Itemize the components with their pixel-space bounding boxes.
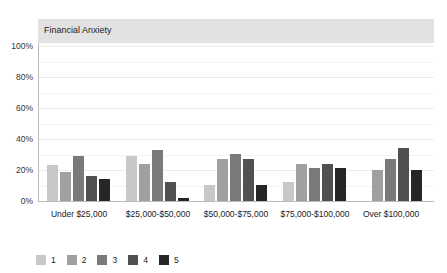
bar	[283, 182, 294, 201]
gridline	[38, 124, 434, 125]
bar	[335, 168, 346, 201]
bar	[126, 156, 137, 201]
x-axis	[38, 201, 434, 202]
legend-swatch-icon	[159, 255, 169, 265]
legend-label: 4	[143, 255, 148, 265]
x-tick-label: Under $25,000	[34, 209, 124, 219]
legend-item[interactable]: 2	[67, 255, 87, 265]
bar	[411, 170, 422, 201]
gridline	[38, 139, 434, 140]
legend-swatch-icon	[36, 255, 46, 265]
x-tick-label: Over $100,000	[346, 209, 436, 219]
chart-title: Financial Anxiety	[44, 25, 112, 35]
y-tick-label: 0%	[0, 196, 33, 206]
bar	[243, 159, 254, 201]
bar	[152, 150, 163, 201]
bar	[165, 182, 176, 201]
y-tick-label: 60%	[0, 103, 33, 113]
bar	[47, 165, 58, 201]
bar	[60, 172, 71, 201]
legend-item[interactable]: 1	[36, 255, 56, 265]
y-tick-label: 20%	[0, 165, 33, 175]
legend-swatch-icon	[67, 255, 77, 265]
bar	[230, 154, 241, 201]
bar	[86, 176, 97, 201]
x-tick-label: $50,000-$75,000	[191, 209, 281, 219]
gridline	[38, 93, 434, 94]
legend-swatch-icon	[97, 255, 107, 265]
bar	[73, 156, 84, 201]
bar-chart: Financial Anxiety 0%20%40%60%80%100% Und…	[0, 0, 447, 273]
chart-header: Financial Anxiety	[38, 19, 434, 43]
legend-label: 5	[174, 255, 179, 265]
bar	[296, 164, 307, 201]
bar	[398, 148, 409, 201]
bar	[139, 164, 150, 201]
bar	[217, 159, 228, 201]
legend-label: 2	[82, 255, 87, 265]
legend: 12345	[36, 255, 190, 265]
legend-item[interactable]: 5	[159, 255, 179, 265]
bar	[372, 170, 383, 201]
y-axis	[38, 43, 39, 201]
y-tick-label: 40%	[0, 134, 33, 144]
legend-label: 3	[112, 255, 117, 265]
x-tick-label: $25,000-$50,000	[113, 209, 203, 219]
gridline	[38, 77, 434, 78]
bar	[256, 185, 267, 201]
y-tick-label: 80%	[0, 72, 33, 82]
bar	[204, 185, 215, 201]
bar	[385, 159, 396, 201]
legend-item[interactable]: 3	[97, 255, 117, 265]
bar	[99, 179, 110, 201]
bar	[322, 164, 333, 201]
bar	[309, 168, 320, 201]
gridline	[38, 108, 434, 109]
legend-label: 1	[51, 255, 56, 265]
gridline	[38, 62, 434, 63]
gridline	[38, 46, 434, 47]
y-tick-label: 100%	[0, 41, 33, 51]
legend-item[interactable]: 4	[128, 255, 148, 265]
legend-swatch-icon	[128, 255, 138, 265]
